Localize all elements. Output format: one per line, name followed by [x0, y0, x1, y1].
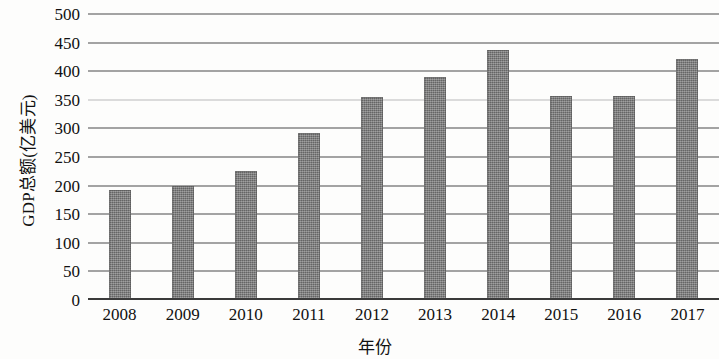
bar-slot: [530, 14, 593, 300]
x-axis-tick-label: 2016: [607, 304, 641, 326]
bar: [298, 133, 320, 300]
bar: [613, 96, 635, 300]
x-axis-tick-label: 2017: [670, 304, 704, 326]
x-axis-tick-label: 2011: [292, 304, 325, 326]
x-axis-tick-labels: 2008200920102011201220132014201520162017: [88, 304, 719, 332]
bar-slot: [151, 14, 214, 300]
bar-slot: [404, 14, 467, 300]
x-axis-tick-label: 2014: [481, 304, 515, 326]
x-axis-tick-label: 2009: [166, 304, 200, 326]
plot-area: [88, 14, 719, 300]
bar-slot: [277, 14, 340, 300]
bar: [109, 190, 131, 300]
bar-chart-figure: GDP总额(亿美元) 05010015020025030035040045050…: [0, 0, 719, 359]
y-axis-tick-label: 500: [34, 6, 80, 23]
bar: [424, 77, 446, 300]
bar-slot: [214, 14, 277, 300]
bar-slot: [656, 14, 719, 300]
y-axis-tick-labels: 050100150200250300350400450500: [34, 0, 80, 359]
y-axis-tick-label: 100: [34, 234, 80, 251]
y-axis-tick-label: 450: [34, 34, 80, 51]
bar-slot: [88, 14, 151, 300]
bar: [361, 97, 383, 300]
bar-slot: [593, 14, 656, 300]
x-axis-title-text: 年份: [358, 333, 392, 358]
bar: [172, 186, 194, 300]
y-axis-tick-label: 0: [34, 292, 80, 309]
bar: [235, 171, 257, 300]
bar: [487, 50, 509, 300]
y-axis-tick-label: 350: [34, 91, 80, 108]
y-axis-tick-label: 200: [34, 177, 80, 194]
bars-layer: [88, 14, 719, 300]
x-axis-line: [88, 298, 719, 300]
bar-slot: [467, 14, 530, 300]
bar-slot: [340, 14, 403, 300]
x-axis-tick-label: 2012: [355, 304, 389, 326]
y-axis-tick-label: 50: [34, 263, 80, 280]
y-axis-tick-label: 400: [34, 63, 80, 80]
x-axis-tick-label: 2010: [229, 304, 263, 326]
y-axis-tick-label: 250: [34, 149, 80, 166]
bar: [550, 96, 572, 300]
bar: [676, 59, 698, 300]
y-axis-tick-label: 150: [34, 206, 80, 223]
x-axis-tick-label: 2013: [418, 304, 452, 326]
x-axis-tick-label: 2015: [544, 304, 578, 326]
y-axis-tick-label: 300: [34, 120, 80, 137]
x-axis-tick-label: 2008: [103, 304, 137, 326]
x-axis-title: 年份: [0, 333, 719, 358]
